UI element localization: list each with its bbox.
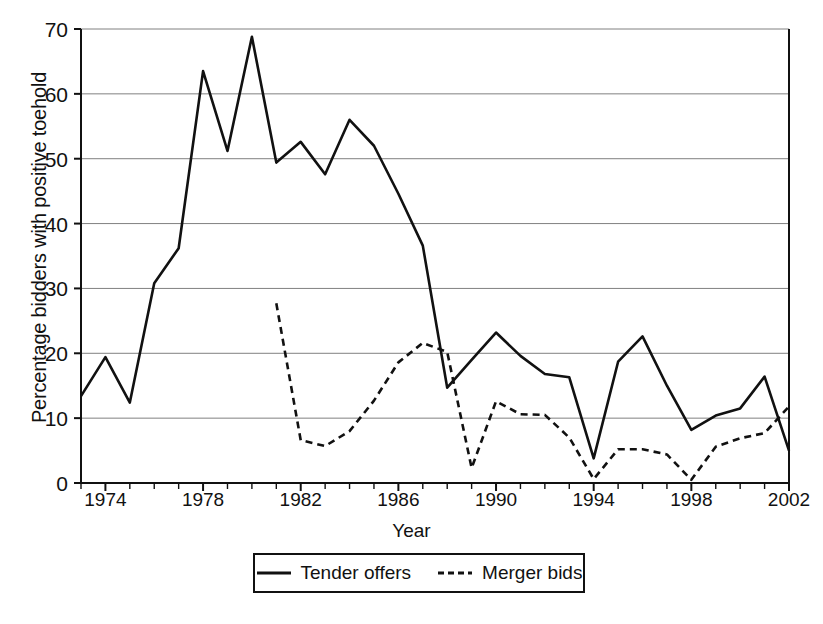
chart-legend: Tender offers Merger bids [253,553,585,593]
y-tick-label: 60 [0,83,68,104]
series-line-tender-offers [81,37,789,459]
y-tick-label: 20 [0,343,68,364]
legend-label-merger-bids: Merger bids [482,562,582,584]
legend-item-merger-bids: Merger bids [437,562,582,584]
y-tick-label: 0 [0,473,68,494]
legend-swatch-solid-icon [256,567,292,579]
series-line-merger-bids [276,303,789,479]
x-tick-label: 1982 [280,489,322,511]
x-tick-label: 2002 [768,489,810,511]
x-tick-label: 1998 [670,489,712,511]
y-tick-label: 10 [0,408,68,429]
legend-label-tender-offers: Tender offers [301,562,412,584]
y-tick-label: 40 [0,213,68,234]
y-tick-label: 30 [0,278,68,299]
legend-item-tender-offers: Tender offers [256,562,412,584]
legend-swatch-dashed-icon [437,567,473,579]
x-tick-label: 1974 [84,489,126,511]
y-tick-label: 70 [0,19,68,40]
y-tick-label: 50 [0,148,68,169]
x-tick-label: 1978 [182,489,224,511]
x-axis-label: Year [0,520,823,542]
x-tick-label: 1994 [573,489,615,511]
x-tick-label: 1986 [377,489,419,511]
chart-figure: Percentage bidders with positive toehold… [0,0,823,624]
x-tick-label: 1990 [475,489,517,511]
